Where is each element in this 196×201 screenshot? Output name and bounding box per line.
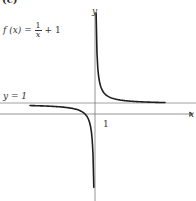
function-tail: + 1 [45,25,61,35]
asymptote-label: y = 1 [3,92,27,101]
function-lhs: f (x) = [3,25,32,35]
graph-figure: (c) f (x) = 1 x + 1 y = 1 y x 1 [0,0,196,201]
curve-right-branch [96,13,165,102]
x-tick-label-one: 1 [103,120,109,129]
panel-label: (c) [2,0,18,5]
curve-left-branch [30,106,94,188]
function-label: f (x) = 1 x + 1 [3,22,61,39]
fraction-denominator: x [35,31,42,39]
y-axis-label: y [92,7,97,16]
fraction: 1 x [35,22,42,39]
x-axis-label: x [189,110,194,119]
